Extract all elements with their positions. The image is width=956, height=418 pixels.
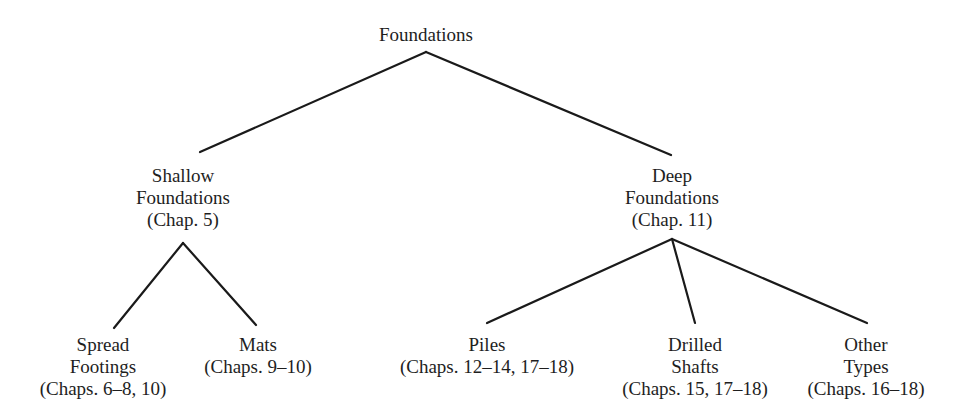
node-line: Foundations xyxy=(625,187,719,209)
node-line: Piles xyxy=(400,334,574,356)
node-line: Footings xyxy=(40,356,167,378)
node-line: Foundations xyxy=(136,187,230,209)
node-shallow-foundations: Shallow Foundations (Chap. 5) xyxy=(136,165,230,231)
node-chapter-ref: (Chaps. 9–10) xyxy=(204,356,312,378)
node-line: Spread xyxy=(40,334,167,356)
node-line: Drilled xyxy=(622,334,768,356)
node-line: Shallow xyxy=(136,165,230,187)
node-foundations: Foundations xyxy=(379,24,473,46)
edge-shallow-to-mats xyxy=(183,243,256,325)
edge-deep-to-other-types xyxy=(672,239,867,323)
edge-shallow-to-spread-footings xyxy=(114,243,183,328)
node-chapter-ref: (Chaps. 6–8, 10) xyxy=(40,378,167,400)
node-line: Mats xyxy=(204,334,312,356)
edge-deep-to-drilled-shafts xyxy=(672,239,695,323)
node-chapter-ref: (Chap. 5) xyxy=(136,209,230,231)
node-chapter-ref: (Chaps. 16–18) xyxy=(807,378,924,400)
foundation-types-tree-diagram: Foundations Shallow Foundations (Chap. 5… xyxy=(0,0,956,418)
node-line: Deep xyxy=(625,165,719,187)
edge-foundations-to-shallow xyxy=(200,52,426,152)
node-deep-foundations: Deep Foundations (Chap. 11) xyxy=(625,165,719,231)
node-mats: Mats (Chaps. 9–10) xyxy=(204,334,312,378)
edge-deep-to-piles xyxy=(487,239,672,323)
node-drilled-shafts: Drilled Shafts (Chaps. 15, 17–18) xyxy=(622,334,768,400)
node-chapter-ref: (Chaps. 12–14, 17–18) xyxy=(400,356,574,378)
node-line: Other xyxy=(807,334,924,356)
node-foundations-label: Foundations xyxy=(379,24,473,46)
node-line: Shafts xyxy=(622,356,768,378)
node-other-types: Other Types (Chaps. 16–18) xyxy=(807,334,924,400)
node-spread-footings: Spread Footings (Chaps. 6–8, 10) xyxy=(40,334,167,400)
node-piles: Piles (Chaps. 12–14, 17–18) xyxy=(400,334,574,378)
node-chapter-ref: (Chap. 11) xyxy=(625,209,719,231)
node-line: Types xyxy=(807,356,924,378)
edge-foundations-to-deep xyxy=(426,52,671,155)
node-chapter-ref: (Chaps. 15, 17–18) xyxy=(622,378,768,400)
